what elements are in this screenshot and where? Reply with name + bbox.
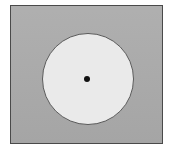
outer-square <box>10 5 163 144</box>
figure-canvas <box>0 0 171 154</box>
center-dot <box>84 76 90 82</box>
